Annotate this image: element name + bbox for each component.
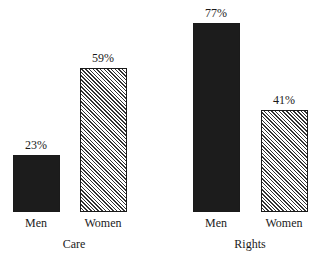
rights-women-category-label: Women <box>249 217 319 229</box>
care-men-category-label: Men <box>1 217 71 229</box>
rights-men-category-label: Men <box>181 217 251 229</box>
rights-men-bar <box>193 23 240 212</box>
rights-group-label: Rights <box>200 238 300 250</box>
care-men-value-label: 23% <box>6 139 66 151</box>
rights-women-bar <box>261 110 308 212</box>
care-women-bar <box>80 68 127 212</box>
care-women-category-label: Women <box>68 217 138 229</box>
care-group-label: Care <box>24 238 124 250</box>
care-women-value-label: 59% <box>73 52 133 64</box>
care-men-bar <box>13 155 60 212</box>
rights-women-value-label: 41% <box>254 94 314 106</box>
rights-men-value-label: 77% <box>186 7 246 19</box>
